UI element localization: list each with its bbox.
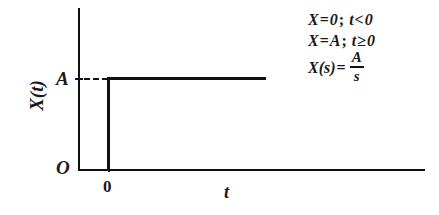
- eq3-numerator: A: [350, 50, 364, 66]
- x-tick-label-zero: 0: [103, 178, 112, 195]
- eq1-condition-variable: t: [349, 11, 353, 28]
- x-axis-line: [78, 169, 425, 171]
- equation-line-1: X=0; t<0: [308, 9, 375, 30]
- equation-line-3: X(s)= A s: [308, 51, 375, 85]
- eq2-condition-operator: ≥: [356, 32, 367, 49]
- eq3-fraction: A s: [350, 50, 364, 84]
- step-function-figure: A O 0 t X(t) X=0; t<0 X=A; t≥0 X(s)= A s: [0, 0, 439, 215]
- y-axis-line: [78, 8, 80, 171]
- eq2-condition-value: 0: [367, 32, 375, 49]
- eq3-equals: =: [336, 57, 347, 78]
- eq2-equals: =: [319, 32, 330, 49]
- y-axis-tick-a: [75, 78, 83, 80]
- eq2-separator: ;: [340, 32, 347, 49]
- eq1-rhs: 0: [330, 11, 338, 28]
- eq3-denominator: s: [352, 68, 362, 84]
- step-plateau-segment: [107, 77, 266, 80]
- eq1-separator: ;: [338, 11, 345, 28]
- eq2-rhs: A: [330, 32, 341, 49]
- equation-annotation-block: X=0; t<0 X=A; t≥0 X(s)= A s: [308, 9, 375, 85]
- eq1-lhs: X: [308, 11, 319, 28]
- eq1-condition-value: 0: [365, 11, 373, 28]
- eq1-condition-operator: <: [354, 11, 365, 28]
- y-axis-label: X(t): [27, 56, 46, 136]
- eq2-lhs: X: [308, 32, 319, 49]
- equation-line-2: X=A; t≥0: [308, 30, 375, 51]
- amplitude-guide-dashed-line: [84, 78, 108, 80]
- eq1-equals: =: [319, 11, 330, 28]
- y-tick-label-a: A: [56, 69, 69, 88]
- eq3-lhs: X(s): [308, 57, 336, 78]
- origin-label: O: [56, 158, 70, 177]
- step-riser-segment: [107, 78, 110, 171]
- x-axis-label: t: [224, 183, 229, 201]
